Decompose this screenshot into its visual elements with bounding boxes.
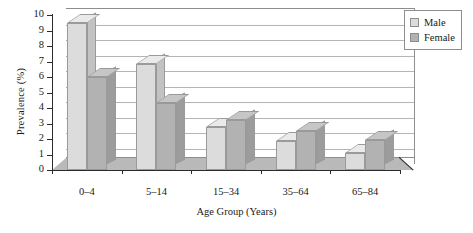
y-axis-tick — [47, 46, 52, 47]
x-axis-tick — [261, 170, 262, 174]
plot-area — [52, 15, 400, 170]
y-axis-tick — [47, 15, 52, 16]
legend: Male Female — [404, 10, 462, 50]
bar-female-5-14 — [156, 103, 176, 170]
x-axis-tick-label: 5–14 — [121, 186, 191, 197]
x-axis-tick-label: 65–84 — [330, 186, 400, 197]
legend-item-female[interactable]: Female — [410, 30, 455, 45]
y-axis-tick-label: 2 — [20, 133, 44, 144]
y-axis-tick — [47, 93, 52, 94]
bar-male-35-64 — [276, 141, 296, 170]
y-axis-tick — [47, 62, 52, 63]
bar-front-face — [156, 103, 176, 170]
y-axis-tick — [47, 124, 52, 125]
bar-front-face — [276, 141, 296, 170]
chart-figure: Prevalence (%) 012345678910 0–45–1415–34… — [0, 0, 473, 233]
bar-male-5-14 — [136, 64, 156, 170]
bar-side-face — [176, 93, 185, 164]
x-axis-depth-edge — [399, 157, 415, 171]
x-axis-tick — [191, 170, 192, 174]
y-axis-tick — [47, 108, 52, 109]
bar-front-face — [67, 23, 87, 170]
x-axis-tick-label: 35–64 — [261, 186, 331, 197]
y-axis-tick-label: 0 — [20, 164, 44, 175]
legend-label-female: Female — [424, 32, 455, 43]
bar-male-15-34 — [206, 127, 226, 170]
y-axis-tick — [47, 31, 52, 32]
y-axis-tick-label: 7 — [20, 56, 44, 67]
y-axis-tick — [47, 77, 52, 78]
y-axis-tick-label: 4 — [20, 102, 44, 113]
bar-male-65-84 — [345, 153, 365, 170]
y-axis-line — [52, 14, 53, 171]
bar-front-face — [226, 120, 246, 170]
bar-front-face — [345, 153, 365, 170]
bar-front-face — [136, 64, 156, 170]
bar-front-face — [296, 131, 316, 170]
legend-label-male: Male — [424, 17, 446, 28]
y-axis-tick-label: 6 — [20, 71, 44, 82]
bar-female-15-34 — [226, 120, 246, 170]
y-axis-tick-label: 5 — [20, 87, 44, 98]
legend-swatch-male-icon — [410, 18, 419, 27]
bar-front-face — [87, 77, 107, 170]
y-axis-tick-label: 3 — [20, 118, 44, 129]
x-axis-tick — [330, 170, 331, 174]
y-axis-tick-label: 9 — [20, 25, 44, 36]
y-axis-tick-label: 1 — [20, 149, 44, 160]
bar-front-face — [365, 140, 385, 170]
y-axis-tick-label: 10 — [20, 9, 44, 20]
x-axis-tick-label: 0–4 — [52, 186, 122, 197]
bar-female-35-64 — [296, 131, 316, 170]
y-axis-tick — [47, 139, 52, 140]
bar-front-face — [206, 127, 226, 170]
bar-female-0-4 — [87, 77, 107, 170]
bar-male-0-4 — [67, 23, 87, 170]
y-axis-tick-label: 8 — [20, 40, 44, 51]
legend-swatch-female-icon — [410, 33, 419, 42]
x-axis-title: Age Group (Years) — [0, 206, 473, 217]
x-axis-tick-label: 15–34 — [191, 186, 261, 197]
x-axis-tick — [122, 170, 123, 174]
x-axis-tick — [400, 170, 401, 174]
bar-side-face — [107, 67, 116, 164]
x-axis-tick — [52, 170, 53, 174]
legend-item-male[interactable]: Male — [410, 15, 455, 30]
x-axis-line — [52, 170, 400, 171]
bar-female-65-84 — [365, 140, 385, 170]
y-axis-tick — [47, 155, 52, 156]
